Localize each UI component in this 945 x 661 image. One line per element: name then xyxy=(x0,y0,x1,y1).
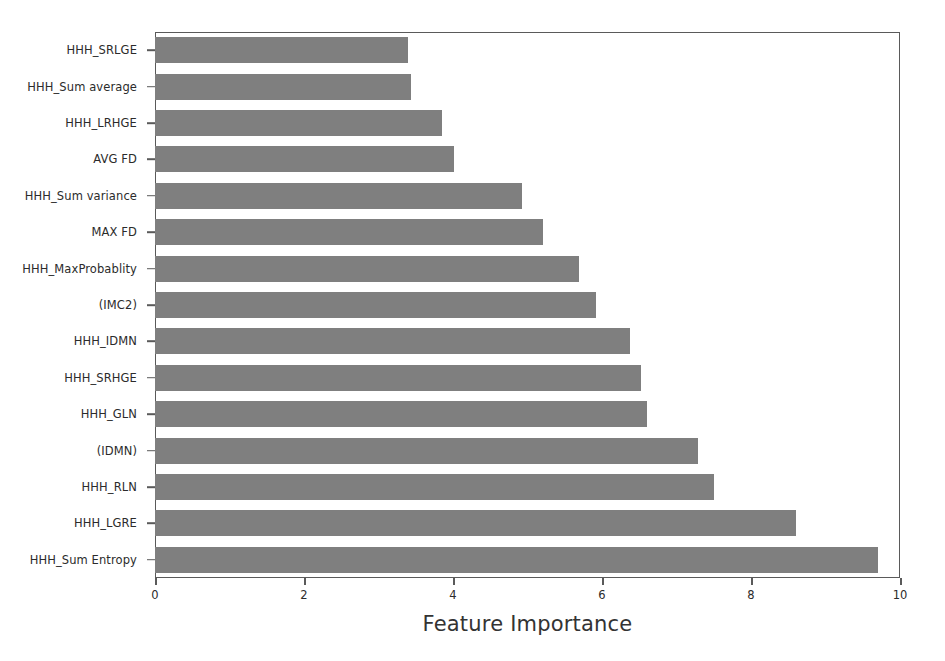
bar-rect xyxy=(155,219,543,245)
bar-rect xyxy=(155,74,411,100)
x-tick-mark xyxy=(900,578,902,585)
bar-max-fd xyxy=(155,219,900,245)
x-tick-label: 4 xyxy=(449,588,456,602)
x-tick-label: 10 xyxy=(893,588,908,602)
x-axis-title: Feature Importance xyxy=(155,612,900,636)
y-tick-label: (IDMN) xyxy=(97,444,137,458)
y-tick-label: HHH_SRHGE xyxy=(64,371,137,385)
bar-idmn xyxy=(155,438,900,464)
bars-area xyxy=(155,32,900,578)
x-tick-mark xyxy=(751,578,753,585)
y-tick-label: HHH_Sum variance xyxy=(25,189,137,203)
y-tick-label: HHH_LGRE xyxy=(74,516,137,530)
bar-rect xyxy=(155,256,579,282)
bar-rect xyxy=(155,401,647,427)
y-tick-label: HHH_IDMN xyxy=(74,334,137,348)
bar-avg-fd xyxy=(155,146,900,172)
bar-hhh-sum-variance xyxy=(155,183,900,209)
bar-hhh-lgre xyxy=(155,510,900,536)
x-tick-mark xyxy=(155,578,157,585)
y-tick-label: HHH_RLN xyxy=(82,480,137,494)
x-tick-mark xyxy=(602,578,604,585)
y-tick-mark xyxy=(147,304,155,306)
bar-hhh-sum-average xyxy=(155,74,900,100)
bar-rect xyxy=(155,510,796,536)
y-tick-mark xyxy=(147,86,155,88)
y-tick-label: HHH_GLN xyxy=(81,407,137,421)
bar-rect xyxy=(155,110,442,136)
y-tick-mark xyxy=(147,486,155,488)
bar-rect xyxy=(155,438,698,464)
x-tick-mark xyxy=(453,578,455,585)
y-axis-labels: HHH_SRLGEHHH_Sum averageHHH_LRHGEAVG FDH… xyxy=(0,32,147,578)
bar-hhh-gln xyxy=(155,401,900,427)
bar-hhh-srhge xyxy=(155,365,900,391)
y-tick-mark xyxy=(147,49,155,51)
bar-rect xyxy=(155,146,454,172)
y-tick-label: HHH_SRLGE xyxy=(67,43,137,57)
y-tick-mark xyxy=(147,231,155,233)
x-tick-label: 0 xyxy=(151,588,158,602)
y-tick-label: HHH_MaxProbablity xyxy=(22,262,137,276)
y-tick-label: MAX FD xyxy=(92,225,137,239)
y-tick-label: AVG FD xyxy=(93,152,137,166)
y-tick-mark xyxy=(147,341,155,343)
bar-hhh-maxprobablity xyxy=(155,256,900,282)
y-tick-label: HHH_Sum Entropy xyxy=(30,553,137,567)
bar-rect xyxy=(155,474,714,500)
bar-rect xyxy=(155,37,408,63)
bar-rect xyxy=(155,328,630,354)
bar-hhh-srlge xyxy=(155,37,900,63)
x-tick-mark xyxy=(304,578,306,585)
y-tick-mark xyxy=(147,195,155,197)
bar-rect xyxy=(155,292,596,318)
y-tick-mark xyxy=(147,450,155,452)
y-tick-label: HHH_Sum average xyxy=(27,80,137,94)
feature-importance-chart-page: HHH_SRLGEHHH_Sum averageHHH_LRHGEAVG FDH… xyxy=(0,0,945,661)
y-tick-mark xyxy=(147,377,155,379)
bar-hhh-sum-entropy xyxy=(155,547,900,573)
bar-rect xyxy=(155,365,641,391)
bar-hhh-lrhge xyxy=(155,110,900,136)
bar-rect xyxy=(155,547,878,573)
y-tick-label: HHH_LRHGE xyxy=(65,116,137,130)
bar-hhh-rln xyxy=(155,474,900,500)
y-tick-label: (IMC2) xyxy=(99,298,137,312)
y-tick-mark xyxy=(147,523,155,525)
y-tick-mark xyxy=(147,122,155,124)
y-tick-mark xyxy=(147,159,155,161)
bar-rect xyxy=(155,183,522,209)
bar-hhh-idmn xyxy=(155,328,900,354)
y-tick-mark xyxy=(147,413,155,415)
y-tick-mark xyxy=(147,559,155,561)
x-tick-label: 8 xyxy=(747,588,754,602)
x-tick-label: 6 xyxy=(598,588,605,602)
bar-imc2 xyxy=(155,292,900,318)
x-tick-label: 2 xyxy=(300,588,307,602)
y-tick-mark xyxy=(147,268,155,270)
